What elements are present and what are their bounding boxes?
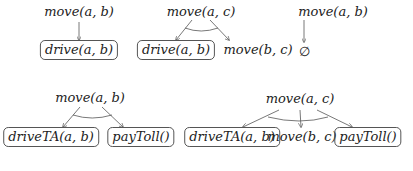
task-node: move(a, b) [44, 4, 114, 20]
edge-arrow [176, 20, 192, 40]
task-node: move(b, c) [267, 129, 336, 145]
ordering-arc [268, 117, 328, 121]
ordering-arc [73, 115, 112, 118]
edge-arrow [300, 110, 301, 127]
edge-arrow [63, 107, 80, 127]
primitive-task-node: driveTA(a, b) [184, 127, 280, 147]
task-node: move(a, b) [298, 4, 368, 20]
task-node: move(a, b) [55, 90, 125, 106]
task-node: move(a, c) [167, 4, 236, 20]
primitive-task-node: driveTA(a, b) [3, 127, 99, 147]
ordering-arc [185, 28, 218, 31]
primitive-task-node: payToll() [107, 127, 174, 147]
empty-set-node: ∅ [299, 44, 310, 60]
task-node: move(b, c) [223, 42, 292, 58]
primitive-task-node: drive(a, b) [137, 40, 215, 60]
edge-arrow [210, 20, 229, 40]
task-node: move(a, c) [266, 91, 335, 107]
primitive-task-node: payToll() [334, 127, 401, 147]
primitive-task-node: drive(a, b) [40, 40, 118, 60]
